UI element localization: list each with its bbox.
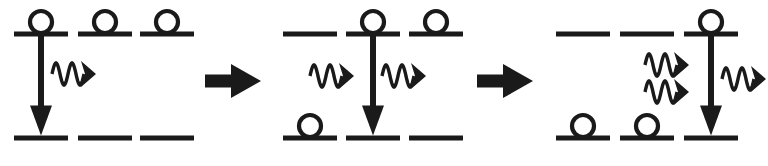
p3-photon-3-wavy-arrow [722,66,766,92]
p2-photon-2-wavy-arrow [382,63,426,89]
p3c1-upper-level-bar [556,32,610,37]
p3c2-lower-particle-circle [636,115,658,137]
p2-photon-1-wavy-arrow-wave [310,65,342,87]
step-arrow-1 [205,64,261,98]
p3c1-lower-particle-circle [572,115,594,137]
energy-level-diagram [0,0,768,166]
p1c2-lower-level-bar [78,136,132,141]
p2c2-lower-level-bar [346,136,400,141]
p2-photon-1-wavy-arrow [310,63,354,89]
p2c1-column [283,32,337,141]
p1c1-transition-arrow-head [30,106,52,136]
p2-photon-2-wavy-arrow-wave [382,65,414,87]
panel-1 [14,11,194,141]
p1-photon-1-wavy-arrow [52,61,96,87]
p2c3-lower-level-bar [409,136,463,141]
step-arrow-1-head [231,64,261,98]
p1c1-upper-particle-circle [30,11,52,33]
p3c3-transition-arrow [700,34,722,136]
p1c1-transition-arrow-shaft [38,34,44,108]
p2c2-upper-particle-circle [362,11,384,33]
p1c1-lower-level-bar [14,136,68,141]
step-arrow-2-shaft [477,75,505,88]
p1c3-upper-particle-circle [156,11,178,33]
p2c1-lower-particle-circle [299,115,321,137]
p1c2-upper-particle-circle [94,11,116,33]
p3-photon-2-wavy-arrow-wave [645,81,677,103]
p3c3-upper-particle-circle [700,11,722,33]
p2c1-upper-level-bar [283,32,337,37]
panel-3 [556,11,766,141]
p2c2-transition-arrow [362,34,384,136]
p3c2-upper-level-bar [620,32,674,37]
panel-2 [283,11,463,141]
p1c1-transition-arrow [30,34,52,136]
p1-photon-1-wavy-arrow-wave [52,63,84,85]
p2c2-transition-arrow-head [362,106,384,136]
p3c3-transition-arrow-shaft [708,34,714,108]
p2c2-transition-arrow-shaft [370,34,376,108]
p3c1-column [556,32,610,141]
p3-photon-3-wavy-arrow-wave [722,68,754,90]
p3-photon-1-wavy-arrow-wave [645,54,677,76]
step-arrow-1-shaft [205,75,233,88]
p2c3-upper-particle-circle [425,11,447,33]
figure-canvas [0,0,768,166]
p2c2-column [346,11,400,141]
p3c3-transition-arrow-head [700,106,722,136]
p3-photon-1-wavy-arrow [645,52,689,78]
p3-photon-2-wavy-arrow [645,79,689,105]
p3c3-lower-level-bar [684,136,738,141]
p1c3-lower-level-bar [140,136,194,141]
p1c3-column [140,11,194,141]
step-arrow-2-head [503,64,533,98]
step-arrow-2 [477,64,533,98]
